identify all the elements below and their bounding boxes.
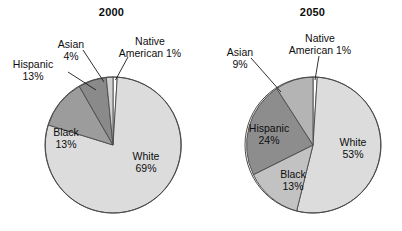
label-asian-name-2000: Asian (42, 38, 100, 50)
label-white-pct-2000: 69% (122, 162, 170, 174)
label-native-american-name-2000: Native (104, 35, 196, 47)
label-hispanic-pct-2050: 24% (237, 134, 301, 146)
label-white-pct-2050: 53% (329, 148, 377, 160)
label-hispanic-name-2050: Hispanic (237, 122, 301, 134)
label-native-american-pct-2000: American 1% (104, 47, 196, 59)
label-hispanic-pct-2000: 13% (2, 70, 64, 82)
label-native-american-2000: Native American 1% (104, 35, 196, 59)
label-asian-2050: Asian 9% (213, 46, 267, 70)
label-black-pct-2000: 13% (42, 138, 90, 150)
label-asian-pct-2050: 9% (213, 58, 267, 70)
label-black-name-2000: Black (42, 126, 90, 138)
leader-line-native-american-2050 (315, 56, 319, 80)
pie-panel-2000: 2000 Asian 4% Native (0, 0, 201, 231)
label-white-2050: White 53% (329, 136, 377, 160)
label-black-pct-2050: 13% (269, 180, 317, 192)
label-black-2000: Black 13% (42, 126, 90, 150)
label-asian-name-2050: Asian (213, 46, 267, 58)
label-black-name-2050: Black (269, 168, 317, 180)
label-hispanic-2000: Hispanic 13% (2, 58, 64, 82)
label-native-american-pct-2050: American 1% (273, 44, 367, 56)
label-native-american-2050: Native American 1% (273, 32, 367, 56)
label-black-2050: Black 13% (269, 168, 317, 192)
label-white-name-2050: White (329, 136, 377, 148)
label-hispanic-name-2000: Hispanic (2, 58, 64, 70)
label-hispanic-2050: Hispanic 24% (237, 122, 301, 146)
label-white-2000: White 69% (122, 150, 170, 174)
pie-panel-2050: 2050 Asian 9% Native American 1 (201, 0, 402, 231)
two-pie-chart-figure: 2000 Asian 4% Native (0, 0, 402, 231)
label-native-american-name-2050: Native (273, 32, 367, 44)
leader-line-native-american-2000 (116, 57, 129, 80)
label-white-name-2000: White (122, 150, 170, 162)
